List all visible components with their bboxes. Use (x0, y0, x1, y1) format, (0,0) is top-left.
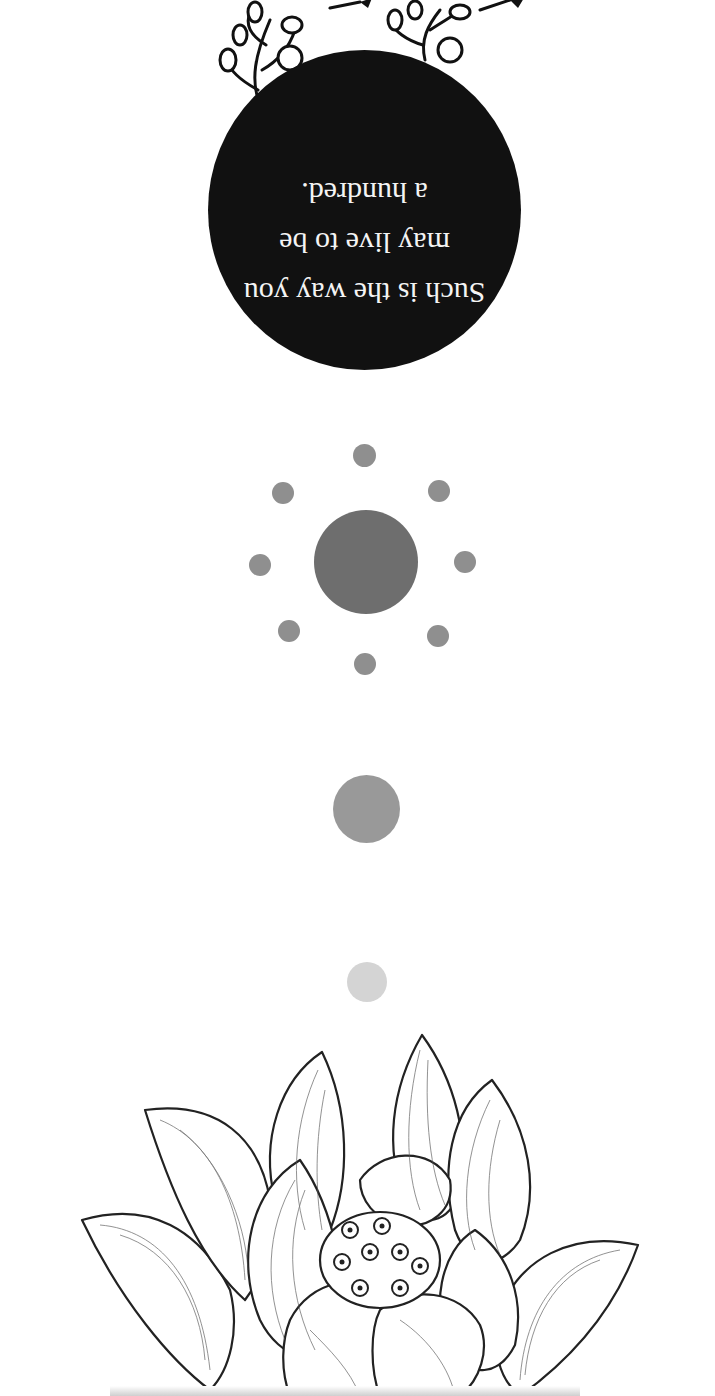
ring-dot (354, 653, 376, 675)
ring-dot (454, 551, 476, 573)
small-dot (347, 962, 387, 1002)
ring-dot (249, 554, 271, 576)
center-dot (314, 510, 418, 614)
ring-dot (272, 482, 294, 504)
mid-dot (333, 775, 400, 843)
ring-dot (278, 620, 300, 642)
bottom-edge (110, 1386, 580, 1396)
quote-line: may live to be (208, 218, 521, 268)
ring-dot (427, 625, 449, 647)
ring-dot (428, 480, 450, 502)
quote-badge: Such is the way you may live to be a hun… (208, 50, 521, 370)
quote-line: Such is the way you (208, 268, 521, 318)
quote-text: Such is the way you may live to be a hun… (208, 168, 521, 318)
quote-line: a hundred. (208, 168, 521, 218)
ring-dot (353, 444, 376, 467)
lotus-flower-icon (60, 1030, 660, 1396)
